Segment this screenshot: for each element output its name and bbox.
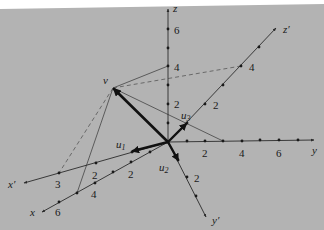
x-prime-tick-3: 3	[55, 178, 61, 190]
z-tick-4: 4	[174, 61, 180, 73]
z-tick-6: 6	[174, 24, 180, 36]
x-tick-4: 4	[91, 188, 97, 200]
coordinate-diagram: z y x x′ y′ z′ 2 4 6 2 4 6 2 4 6 2 3 2 2…	[0, 0, 324, 230]
y-prime-axis-label: y′	[211, 214, 220, 226]
x-tick-2: 2	[128, 168, 134, 180]
y-tick-6: 6	[276, 147, 282, 159]
x-axis-label: x	[29, 206, 35, 218]
z-prime-tick-2: 2	[213, 99, 219, 111]
v-label: v	[103, 74, 108, 86]
z-prime-tick-4: 4	[249, 61, 255, 73]
x-prime-axis-label: x′	[7, 178, 16, 190]
figure-background	[0, 4, 324, 230]
y-axis-label: y	[311, 144, 317, 156]
x-tick-6: 6	[55, 206, 61, 218]
diagram-frame: z y x x′ y′ z′ 2 4 6 2 4 6 2 4 6 2 3 2 2…	[0, 0, 324, 230]
z-axis-label: z	[172, 2, 178, 14]
y-prime-tick-2: 2	[194, 172, 200, 184]
z-tick-2: 2	[174, 98, 180, 110]
y-tick-4: 4	[239, 147, 245, 159]
x-prime-tick-2: 2	[92, 169, 98, 181]
z-prime-axis-label: z′	[282, 23, 290, 35]
y-tick-2: 2	[202, 147, 208, 159]
